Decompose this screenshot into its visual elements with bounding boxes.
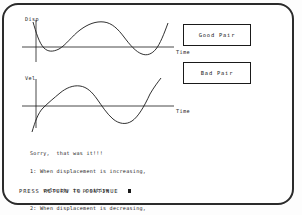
plot-canvas: Disp Time Vel Time Good Pair Bad Pair S xyxy=(0,0,302,215)
velocity-plot xyxy=(22,76,182,132)
explanation-line: Sorry, that was it!!! xyxy=(30,150,153,156)
good-pair-button[interactable]: Good Pair xyxy=(183,24,251,46)
displacement-x-axis-label: Time xyxy=(176,49,190,55)
displacement-plot xyxy=(22,18,182,66)
crt-screen: Disp Time Vel Time Good Pair Bad Pair S xyxy=(0,0,302,215)
status-bar: PRESS RETURN TO CONTINUE xyxy=(19,188,131,194)
good-pair-button-label: Good Pair xyxy=(199,32,235,38)
explanation-text: Sorry, that was it!!! 1: When displaceme… xyxy=(30,138,153,215)
block-cursor-icon xyxy=(128,189,132,194)
velocity-curve xyxy=(32,78,161,132)
bad-pair-button[interactable]: Bad Pair xyxy=(183,62,251,84)
bad-pair-button-label: Bad Pair xyxy=(201,70,233,76)
explanation-line: 2: When displacement is decreasing, xyxy=(30,205,153,211)
explanation-line: 1: When displacement is increasing, xyxy=(30,168,153,174)
continue-prompt-label: PRESS RETURN TO CONTINUE xyxy=(19,188,119,194)
velocity-x-axis-label: Time xyxy=(176,108,190,114)
displacement-curve xyxy=(33,22,168,55)
